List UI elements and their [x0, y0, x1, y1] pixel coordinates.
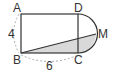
label-d: D — [74, 1, 83, 15]
label-bc-length: 6 — [46, 59, 53, 73]
geometry-diagram: A D B C M 4 6 — [0, 0, 114, 75]
label-c: C — [74, 53, 83, 67]
label-m: M — [98, 27, 108, 41]
label-b: B — [13, 53, 21, 67]
label-ab-length: 4 — [8, 27, 15, 41]
label-a: A — [13, 1, 21, 15]
